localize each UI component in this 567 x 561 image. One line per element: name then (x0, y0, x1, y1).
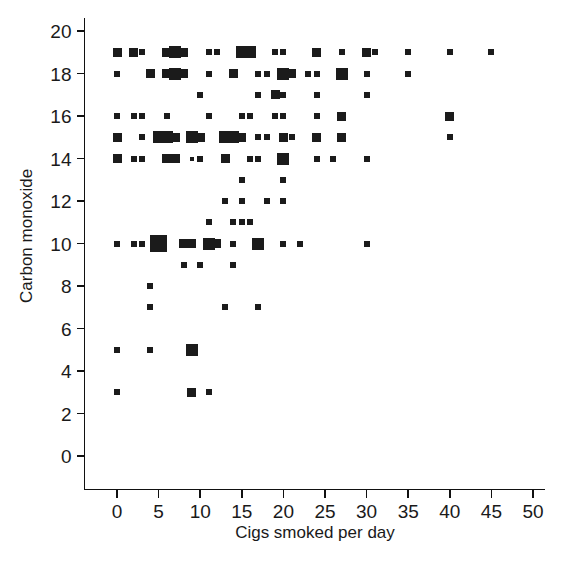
data-point (289, 134, 295, 140)
data-point (247, 156, 253, 162)
data-point (150, 235, 167, 252)
data-point (230, 241, 236, 247)
data-point (272, 113, 278, 119)
data-point (181, 262, 187, 268)
data-point (147, 283, 153, 289)
data-point (488, 49, 494, 55)
y-axis-title: Carbon monoxide (17, 169, 36, 303)
data-point (147, 347, 153, 353)
data-point (222, 198, 228, 204)
data-point (190, 157, 194, 161)
data-point (247, 113, 253, 119)
x-tick-label: 15 (231, 501, 252, 522)
data-point (114, 241, 120, 247)
data-point (337, 133, 346, 142)
data-point (330, 156, 336, 162)
x-tick-label: 45 (481, 501, 502, 522)
data-point (146, 69, 155, 78)
data-point (287, 69, 296, 78)
x-tick-label: 50 (522, 501, 543, 522)
data-point (187, 388, 196, 397)
data-point (196, 133, 205, 142)
y-tick-label: 0 (61, 446, 72, 467)
y-tick-label: 14 (50, 149, 72, 170)
data-point (239, 177, 245, 183)
data-point (244, 46, 256, 58)
data-point (131, 156, 137, 162)
data-point (336, 68, 348, 80)
y-tick-label: 12 (50, 191, 71, 212)
data-point (447, 134, 453, 140)
data-point (339, 49, 345, 55)
data-point (237, 133, 246, 142)
data-point (264, 134, 270, 140)
data-point (271, 90, 280, 99)
data-point (171, 154, 180, 163)
data-point (206, 389, 212, 395)
data-point (197, 156, 203, 162)
data-point (212, 239, 221, 248)
x-tick-label: 20 (273, 501, 294, 522)
y-tick-label: 10 (50, 234, 71, 255)
data-point (179, 69, 188, 78)
data-point (206, 219, 212, 225)
data-point (255, 304, 261, 310)
x-tick-label: 0 (112, 501, 123, 522)
data-point (179, 239, 188, 248)
data-point (405, 49, 411, 55)
x-tick-label: 30 (356, 501, 377, 522)
data-point (305, 71, 311, 77)
data-point (264, 71, 270, 77)
data-point (314, 113, 320, 119)
x-tick-label: 40 (439, 501, 460, 522)
data-point (252, 238, 264, 250)
data-point (113, 48, 122, 57)
y-tick-label: 20 (50, 21, 71, 42)
data-point (255, 71, 261, 77)
data-point (279, 133, 288, 142)
data-point (187, 239, 196, 248)
data-point (162, 154, 171, 163)
data-point (214, 49, 220, 55)
x-axis: 05101520253035404550 (85, 490, 546, 522)
data-point (206, 71, 212, 77)
data-point (206, 49, 212, 55)
data-point (264, 198, 270, 204)
data-point (277, 153, 289, 165)
data-point (239, 113, 245, 119)
data-point (314, 156, 320, 162)
data-point (239, 219, 245, 225)
data-point (255, 134, 261, 140)
data-point (131, 241, 137, 247)
data-point (131, 113, 137, 119)
data-point (197, 262, 203, 268)
data-point (139, 49, 145, 55)
data-point (280, 198, 286, 204)
data-point (362, 48, 371, 57)
data-point (280, 113, 286, 119)
data-point (337, 112, 346, 121)
data-point (230, 262, 236, 268)
data-point (255, 92, 261, 98)
data-point (114, 347, 120, 353)
data-point (280, 177, 286, 183)
y-axis: 02468101214161820 (50, 18, 84, 489)
data-point (312, 48, 321, 57)
x-axis-title: Cigs smoked per day (235, 523, 395, 542)
data-point (312, 133, 321, 142)
data-point (445, 112, 454, 121)
x-tick-label: 25 (314, 501, 335, 522)
data-point (114, 113, 120, 119)
data-point (364, 92, 370, 98)
data-point (113, 154, 122, 163)
y-tick-label: 8 (61, 276, 72, 297)
data-point (114, 389, 120, 395)
data-point (221, 154, 230, 163)
data-point (280, 92, 286, 98)
data-point (280, 49, 286, 55)
data-point (314, 71, 320, 77)
scatter-plot: 02468101214161820 05101520253035404550 C… (0, 0, 567, 561)
y-tick-label: 2 (61, 404, 72, 425)
data-point (164, 113, 170, 119)
data-point (139, 241, 145, 247)
